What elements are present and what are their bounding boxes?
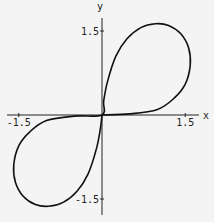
x-tick-label: 1.5 (176, 117, 194, 128)
y-axis-label: y (97, 1, 103, 12)
x-tick-label: -1.5 (7, 117, 31, 128)
y-tick-label: 1.5 (81, 26, 99, 37)
plot: -1.51.51.5-1.5 x y (0, 0, 214, 222)
x-axis-label: x (203, 110, 209, 121)
y-tick-label: -1.5 (75, 194, 99, 205)
